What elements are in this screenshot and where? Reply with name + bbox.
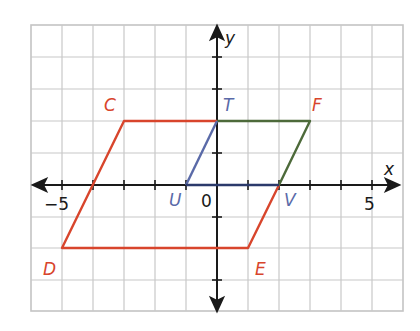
origin-label: 0 (201, 191, 212, 211)
x-axis-right-arrow-icon (386, 179, 399, 191)
tick-label-5: 5 (364, 194, 375, 214)
y-axis-up-arrow-icon (211, 26, 223, 39)
axes (33, 26, 399, 311)
x-axis-label: x (383, 159, 395, 179)
label-T: T (223, 95, 235, 115)
tick-label-neg5: −5 (44, 194, 69, 214)
label-E: E (255, 259, 266, 279)
y-axis-label: y (224, 28, 236, 48)
label-U: U (169, 190, 182, 210)
label-C: C (104, 95, 116, 115)
tick-labels: 0 −5 5 (44, 191, 375, 214)
label-F: F (312, 95, 322, 115)
x-axis-left-arrow-icon (33, 179, 46, 191)
y-axis-down-arrow-icon (211, 298, 223, 311)
coordinate-plane-figure: C T F U V D E x y 0 −5 5 (0, 0, 420, 331)
label-D: D (43, 259, 56, 279)
label-V: V (284, 190, 297, 210)
